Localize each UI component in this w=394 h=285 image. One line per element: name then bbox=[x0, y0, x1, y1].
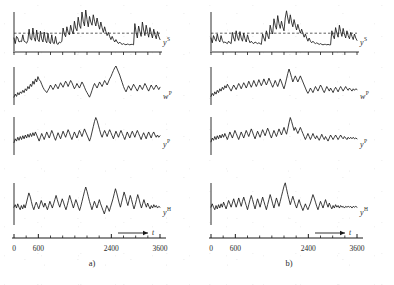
panel-b: yS wP yP yH t b) 060024003600 bbox=[197, 0, 394, 285]
trace-label-superscript: H bbox=[364, 206, 368, 212]
trace-label-a-3: yH bbox=[163, 206, 171, 217]
x-tick-label: 3600 bbox=[153, 244, 168, 253]
x-tick-label: 2400 bbox=[301, 244, 316, 253]
trace-row-a-2 bbox=[0, 112, 197, 160]
time-direction-arrow-b bbox=[315, 228, 355, 238]
trace-label-base: w bbox=[360, 92, 365, 101]
x-tick-label: 600 bbox=[33, 244, 44, 253]
trace-plot-b-1 bbox=[197, 62, 394, 110]
trace-label-superscript: P bbox=[167, 138, 170, 144]
trace-label-a-0: yS bbox=[163, 36, 170, 47]
trace-plot-b-2 bbox=[197, 112, 394, 160]
x-tick-label: 3600 bbox=[350, 244, 365, 253]
x-tick-label: 2400 bbox=[104, 244, 119, 253]
trace-label-b-1: wP bbox=[360, 90, 369, 101]
x-tick-label: 0 bbox=[12, 244, 16, 253]
trace-plot-a-3 bbox=[0, 178, 197, 230]
trace-row-b-1 bbox=[197, 62, 394, 110]
trace-label-superscript: P bbox=[366, 90, 369, 96]
x-tick-label: 0 bbox=[209, 244, 213, 253]
trace-row-a-3 bbox=[0, 178, 197, 230]
trace-row-b-3 bbox=[197, 178, 394, 230]
trace-row-b-0 bbox=[197, 6, 394, 56]
trace-label-superscript: P bbox=[169, 90, 172, 96]
trace-row-a-1 bbox=[0, 62, 197, 110]
trace-label-superscript: S bbox=[167, 36, 170, 42]
panel-caption-a: a) bbox=[89, 258, 96, 268]
trace-label-a-1: wP bbox=[163, 90, 172, 101]
panel-a: yS wP yP yH t a) 060024003600 bbox=[0, 0, 197, 285]
trace-plot-a-1 bbox=[0, 62, 197, 110]
x-tick-label: 600 bbox=[230, 244, 241, 253]
trace-label-a-2: yP bbox=[163, 138, 170, 149]
trace-label-b-0: yS bbox=[360, 36, 367, 47]
trace-plot-b-3 bbox=[197, 178, 394, 230]
trace-label-superscript: P bbox=[364, 138, 367, 144]
trace-label-superscript: S bbox=[364, 36, 367, 42]
trace-plot-b-0 bbox=[197, 6, 394, 56]
panel-caption-b: b) bbox=[285, 258, 292, 268]
trace-row-b-2 bbox=[197, 112, 394, 160]
trace-label-b-3: yH bbox=[360, 206, 368, 217]
trace-label-b-2: yP bbox=[360, 138, 367, 149]
trace-plot-a-0 bbox=[0, 6, 197, 56]
trace-plot-a-2 bbox=[0, 112, 197, 160]
figure-container: yS wP yP yH t a) 060024003600 bbox=[0, 0, 394, 285]
trace-label-base: w bbox=[163, 92, 168, 101]
trace-row-a-0 bbox=[0, 6, 197, 56]
trace-label-superscript: H bbox=[167, 206, 171, 212]
time-direction-arrow-a bbox=[118, 228, 158, 238]
